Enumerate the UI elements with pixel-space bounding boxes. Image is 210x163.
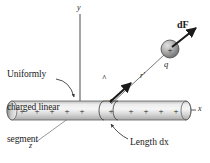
physics-diagram-figure: + + + + + + + + + + + [0,0,210,163]
label-uniform-line-1: Uniformly [7,69,60,80]
dF-force-arrow [172,28,196,47]
axis-label-x: x [198,104,202,113]
label-uniform-line-2: charged linear [7,102,60,113]
label-unit-vector-r-hat: ^ r' [102,78,115,115]
label-uniform-line-3: segment [7,134,60,145]
axis-label-y: y [77,3,81,12]
svg-text:+: + [64,106,69,116]
r-hat-base: r' [110,96,115,105]
label-uniformly-charged-segment: Uniformly charged linear segment [7,47,60,163]
label-point-charge-q: q [164,60,168,70]
svg-text:+: + [143,106,148,116]
label-distance-r-prime: r' [140,71,145,80]
svg-text:+: + [128,106,133,116]
r-hat-caret: ^ [102,74,107,83]
svg-text:+: + [173,106,178,116]
label-force-vector-dF: dF [177,19,189,31]
axis-label-z: z [29,141,32,150]
label-length-dx: Length dx [130,137,169,148]
svg-text:+: + [158,106,163,116]
svg-text:+: + [79,106,84,116]
leader-length-dx [111,124,128,139]
r-prime-ray [111,55,164,104]
